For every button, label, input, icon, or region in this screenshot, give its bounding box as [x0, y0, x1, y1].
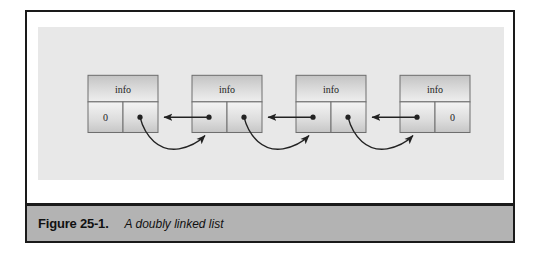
node-info-label: info: [115, 84, 131, 95]
figure-caption-bar: Figure 25-1. A doubly linked list: [27, 203, 513, 241]
list-node: info: [296, 75, 366, 132]
figure-caption-text: A doubly linked list: [125, 217, 224, 231]
list-node: info 0: [400, 75, 470, 132]
node-info-label: info: [427, 84, 443, 95]
list-node: info 0: [88, 75, 158, 132]
figure-frame: info 0 info: [25, 10, 515, 243]
illustration-area: info 0 info: [27, 12, 513, 205]
node-info-label: info: [219, 84, 235, 95]
linked-list-diagram: info 0 info: [27, 12, 513, 205]
figure-caption-number: Figure 25-1.: [38, 216, 109, 231]
node-next-null-label: 0: [450, 112, 455, 123]
figure-root: info 0 info: [0, 0, 545, 258]
node-info-label: info: [323, 84, 339, 95]
list-node: info: [192, 75, 262, 132]
node-prev-null-label: 0: [103, 112, 108, 123]
